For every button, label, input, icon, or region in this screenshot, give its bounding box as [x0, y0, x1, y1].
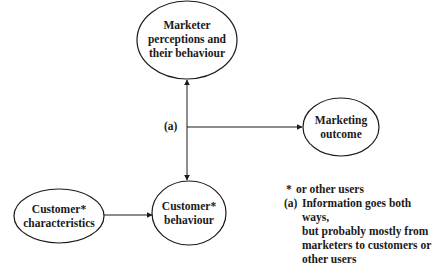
legend-mark: * — [286, 182, 296, 196]
node-behaviour-label: Customer* behaviour — [152, 199, 226, 227]
node-characteristics-label: Customer* characteristics — [14, 202, 104, 230]
legend-text: or other users — [296, 182, 364, 196]
legend-text: Information goes both ways, but probably… — [302, 196, 436, 266]
legend: * or other users (a) Information goes bo… — [286, 182, 436, 266]
annotation-a: (a) — [164, 120, 177, 132]
legend-mark: (a) — [284, 196, 302, 266]
node-marketer-label: Marketer perceptions and their behaviour — [137, 18, 237, 60]
legend-item-a: (a) Information goes both ways, but prob… — [284, 196, 436, 266]
node-outcome-label: Marketing outcome — [303, 113, 379, 141]
legend-item-asterisk: * or other users — [286, 182, 436, 196]
